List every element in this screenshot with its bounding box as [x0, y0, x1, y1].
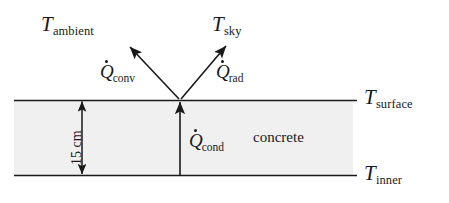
q-conv-symbol-group: Q [100, 62, 114, 81]
t-sky-symbol: T [212, 12, 224, 36]
label-q-rad: Qrad [216, 62, 244, 81]
label-t-ambient: Tambient [41, 14, 94, 35]
label-q-cond: Qcond [189, 131, 225, 150]
t-inner-subscript: inner [376, 173, 402, 187]
t-ambient-symbol: T [41, 12, 53, 36]
q-rad-subscript: rad [229, 72, 244, 84]
q-conv-subscript: conv [113, 72, 135, 84]
q-cond-symbol-group: Q [189, 131, 203, 150]
material-label: concrete [253, 130, 304, 145]
q-rad-symbol: Q [216, 61, 230, 82]
t-surface-subscript: surface [376, 97, 413, 111]
label-t-surface: Tsurface [364, 87, 413, 108]
convection-arrow [130, 47, 179, 99]
overdot-icon [194, 129, 197, 132]
q-cond-symbol: Q [189, 130, 203, 151]
label-t-sky: Tsky [212, 14, 242, 35]
label-q-conv: Qconv [100, 62, 136, 81]
q-conv-symbol: Q [100, 61, 114, 82]
t-surface-symbol: T [364, 85, 376, 109]
t-ambient-subscript: ambient [53, 24, 94, 38]
overdot-icon [105, 60, 108, 63]
heat-transfer-diagram: Tambient Tsky Qconv Qrad Qcond concrete … [0, 0, 449, 203]
thickness-label: 15 cm [70, 130, 84, 165]
label-t-inner: Tinner [364, 163, 402, 184]
t-sky-subscript: sky [224, 24, 242, 38]
overdot-icon [221, 60, 224, 63]
t-inner-symbol: T [364, 161, 376, 185]
q-cond-subscript: cond [202, 141, 224, 153]
q-rad-symbol-group: Q [216, 62, 230, 81]
